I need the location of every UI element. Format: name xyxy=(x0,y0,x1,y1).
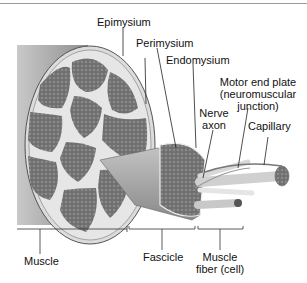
label-perimysium: Perimysium xyxy=(136,37,193,49)
label-motor-end-plate-line1: Motor end plate xyxy=(208,76,307,88)
label-muscle-fiber: Muscle fiber (cell) xyxy=(196,251,244,275)
scale-brackets xyxy=(17,226,243,254)
label-nerve-axon-line1: Nerve xyxy=(198,107,230,119)
label-capillary: Capillary xyxy=(248,120,291,132)
label-epimysium: Epimysium xyxy=(97,16,151,28)
label-motor-end-plate-line2: (neuromuscular xyxy=(208,88,307,100)
label-muscle-fiber-line2: fiber (cell) xyxy=(196,263,244,275)
label-muscle-fiber-line1: Muscle xyxy=(196,251,244,263)
label-nerve-axon-line2: axon xyxy=(198,119,230,131)
label-nerve-axon: Nerve axon xyxy=(198,107,230,131)
muscle-fibers xyxy=(195,162,289,207)
label-muscle: Muscle xyxy=(24,255,59,267)
label-fascicle: Fascicle xyxy=(143,251,183,263)
label-endomysium: Endomysium xyxy=(166,54,230,66)
muscle-bundle xyxy=(17,45,155,244)
